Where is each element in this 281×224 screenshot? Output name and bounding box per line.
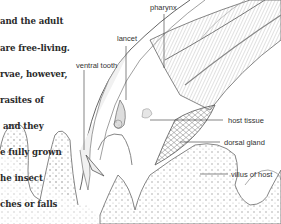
illustration: and the adult are free-living. rvae, how…: [0, 0, 281, 224]
caption-line: rasites of: [0, 96, 120, 105]
caption-line: e fully grown: [0, 148, 120, 157]
label-pharynx: pharynx: [150, 3, 177, 12]
pharynx-body: [150, 0, 281, 110]
label-lancet: lancet: [117, 34, 137, 43]
host-tissue: [142, 109, 152, 118]
label-ventral-tooth: ventral tooth: [76, 61, 117, 70]
caption-line: are free-living.: [0, 44, 120, 53]
label-host-tissue: host tissue: [228, 116, 264, 125]
caption-line: he insect: [0, 174, 120, 183]
caption-line: ches or falls: [0, 200, 120, 209]
label-villus-of-host: villus of host: [231, 170, 272, 179]
caption-line: and they: [0, 122, 120, 131]
label-dorsal-gland: dorsal gland: [224, 138, 265, 147]
caption-text: and the adult are free-living. rvae, how…: [0, 0, 120, 224]
caption-line: rvae, however,: [0, 70, 120, 79]
caption-line: and the adult: [0, 17, 120, 26]
